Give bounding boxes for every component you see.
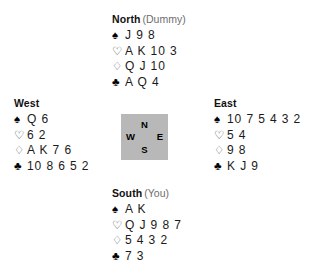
hand-west-heart-row: ♡ 6 2: [14, 128, 89, 144]
heart-icon: ♡: [112, 218, 125, 234]
hand-east-heart-row: ♡ 5 4: [214, 128, 301, 144]
hand-north-spade-cards: J 9 8: [125, 28, 156, 44]
hand-west-club-cards: 10 8 6 5 2: [27, 159, 89, 175]
hand-north-diamond-cards: Q J 10: [125, 59, 166, 75]
hand-south-direction-label: South: [112, 187, 142, 199]
compass-box: N W E S: [121, 114, 168, 160]
hand-south-spade-row: ♠ A K: [112, 202, 182, 218]
hand-west: West ♠ Q 6 ♡ 6 2 ♢ A K 7 6 ♣ 10 8 6 5 2: [14, 96, 89, 174]
hand-south-diamond-cards: 5 4 3 2: [125, 233, 168, 249]
hand-east-direction-label: East: [214, 97, 237, 109]
compass-north-label: N: [141, 120, 148, 130]
hand-south-diamond-row: ♢ 5 4 3 2: [112, 233, 182, 249]
diamond-icon: ♢: [112, 233, 125, 249]
hand-west-spade-cards: Q 6: [27, 112, 49, 128]
spade-icon: ♠: [112, 28, 125, 44]
hand-north-heart-row: ♡ A K 10 3: [112, 44, 186, 60]
hand-north-club-row: ♣ A Q 4: [112, 75, 186, 91]
spade-icon: ♠: [214, 112, 227, 128]
diamond-icon: ♢: [214, 143, 227, 159]
hand-north-direction-label: North: [112, 13, 141, 25]
hand-north-diamond-row: ♢ Q J 10: [112, 59, 186, 75]
club-icon: ♣: [14, 159, 27, 175]
hand-east-spade-cards: 10 7 5 4 3 2: [227, 112, 301, 128]
hand-east-spade-row: ♠ 10 7 5 4 3 2: [214, 112, 301, 128]
hand-north-club-cards: A Q 4: [125, 75, 160, 91]
hand-west-club-row: ♣ 10 8 6 5 2: [14, 159, 89, 175]
heart-icon: ♡: [214, 128, 227, 144]
hand-south-header: South(You): [112, 186, 182, 200]
hand-north-role-label: (Dummy): [143, 13, 186, 25]
hand-north: North(Dummy) ♠ J 9 8 ♡ A K 10 3 ♢ Q J 10…: [112, 12, 186, 90]
hand-north-header: North(Dummy): [112, 12, 186, 26]
hand-east-club-cards: K J 9: [227, 159, 259, 175]
spade-icon: ♠: [112, 202, 125, 218]
heart-icon: ♡: [112, 44, 125, 60]
compass-south-label: S: [141, 145, 147, 155]
hand-east: East ♠ 10 7 5 4 3 2 ♡ 5 4 ♢ 9 8 ♣ K J 9: [214, 96, 301, 174]
club-icon: ♣: [214, 159, 227, 175]
club-icon: ♣: [112, 75, 125, 91]
hand-south: South(You) ♠ A K ♡ Q J 9 8 7 ♢ 5 4 3 2 ♣…: [112, 186, 182, 264]
hand-west-header: West: [14, 96, 89, 110]
hand-east-club-row: ♣ K J 9: [214, 159, 301, 175]
compass-east-label: E: [157, 132, 163, 142]
hand-west-diamond-cards: A K 7 6: [27, 143, 72, 159]
hand-south-club-cards: 7 3: [125, 249, 144, 265]
hand-east-diamond-row: ♢ 9 8: [214, 143, 301, 159]
hand-east-header: East: [214, 96, 301, 110]
hand-west-heart-cards: 6 2: [27, 128, 46, 144]
hand-south-spade-cards: A K: [125, 202, 146, 218]
spade-icon: ♠: [14, 112, 27, 128]
hand-west-spade-row: ♠ Q 6: [14, 112, 89, 128]
diamond-icon: ♢: [112, 59, 125, 75]
hand-west-direction-label: West: [14, 97, 39, 109]
hand-west-diamond-row: ♢ A K 7 6: [14, 143, 89, 159]
hand-north-heart-cards: A K 10 3: [125, 44, 178, 60]
diamond-icon: ♢: [14, 143, 27, 159]
hand-east-diamond-cards: 9 8: [227, 143, 246, 159]
hand-south-club-row: ♣ 7 3: [112, 249, 182, 265]
hand-south-heart-cards: Q J 9 8 7: [125, 218, 182, 234]
hand-south-heart-row: ♡ Q J 9 8 7: [112, 218, 182, 234]
heart-icon: ♡: [14, 128, 27, 144]
hand-south-role-label: (You): [144, 187, 169, 199]
compass-west-label: W: [126, 132, 135, 142]
club-icon: ♣: [112, 249, 125, 265]
hand-north-spade-row: ♠ J 9 8: [112, 28, 186, 44]
hand-east-heart-cards: 5 4: [227, 128, 246, 144]
